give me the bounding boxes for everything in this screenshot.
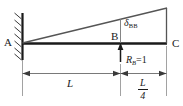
label-dimension-L-over-4: L 4 — [138, 78, 148, 101]
dimension-arrowhead-right — [159, 71, 167, 76]
label-point-c: C — [172, 38, 179, 49]
label-point-a: A — [4, 37, 12, 48]
deflection-subscript: BB — [129, 22, 138, 29]
label-unit-load: RB=1 — [126, 55, 147, 66]
force-value: =1 — [136, 54, 147, 65]
beam-diagram-canvas — [0, 0, 183, 106]
dimension-arrowhead-left — [23, 71, 31, 76]
label-deflection-bb: δBB — [124, 18, 138, 29]
dimension-line-L-over-4 — [121, 71, 167, 76]
dimension-arrowhead-mid-right — [121, 71, 129, 76]
fraction-numerator: L — [138, 78, 148, 89]
label-dimension-L: L — [67, 78, 73, 89]
beam-diagram-figure: A B C δBB RB=1 L L 4 — [0, 0, 183, 106]
label-point-b: B — [111, 31, 118, 42]
wall-hatching — [15, 13, 22, 60]
deflected-shape-line — [23, 8, 168, 43]
fixed-support-wall — [15, 13, 23, 60]
fraction-denominator: 4 — [138, 91, 148, 102]
dimension-line-L — [23, 71, 121, 76]
unit-load-arrow-b — [118, 43, 124, 62]
dimension-arrowhead-mid-left — [113, 71, 121, 76]
